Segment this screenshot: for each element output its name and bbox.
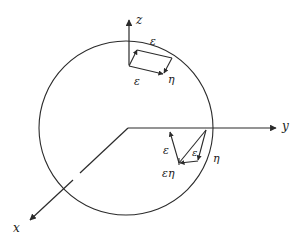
right-patch-label-epsilon-eta: εη xyxy=(162,168,175,179)
top-patch-label-epsilon-upper: ε xyxy=(150,36,156,47)
top-patch-label-epsilon-lower: ε xyxy=(134,76,140,87)
right-patch-edge-left xyxy=(170,132,179,163)
axis-line-x-inner xyxy=(80,128,128,173)
top-patch-edge-left xyxy=(129,50,137,66)
top-patch-label-eta: η xyxy=(168,74,175,85)
axis-label-y: y xyxy=(282,120,289,132)
top-patch-edge-bottom xyxy=(129,66,163,74)
axis-label-x: x xyxy=(13,222,20,234)
right-patch-edge-bottom xyxy=(180,161,198,163)
figure-canvas: z y x ε ε η ε ε εη η xyxy=(0,0,308,245)
axis-line-x-outer xyxy=(30,180,73,220)
right-patch-label-epsilon-left: ε xyxy=(163,145,169,156)
top-patch-edge-right xyxy=(164,58,172,73)
axis-label-z: z xyxy=(136,14,142,26)
right-patch-label-eta: η xyxy=(213,153,220,164)
right-patch-label-epsilon-right: ε xyxy=(192,148,197,158)
